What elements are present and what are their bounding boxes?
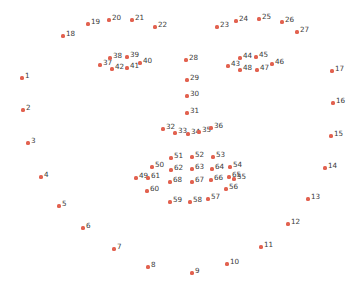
landmark-label: 61 [151,172,160,179]
landmark-marker-icon [227,175,230,178]
landmark-marker-icon [20,76,23,79]
landmark-marker-icon [206,197,209,200]
landmark-marker-icon [21,108,24,111]
landmark-marker-icon [161,127,164,130]
landmark-label: 24 [239,15,248,22]
landmark-label: 6 [86,222,90,229]
landmark-label: 67 [195,176,204,183]
landmark-marker-icon [329,134,332,137]
landmark-marker-icon [330,69,333,72]
landmark-label: 52 [195,151,204,158]
landmark-marker-icon [323,166,326,169]
landmark-marker-icon [225,262,228,265]
landmark-marker-icon [295,30,298,33]
landmark-marker-icon [211,155,214,158]
landmark-label: 50 [155,161,164,168]
landmark-label: 14 [328,162,337,169]
landmark-marker-icon [168,180,171,183]
landmark-marker-icon [331,101,334,104]
landmark-label: 9 [195,267,199,274]
landmark-marker-icon [190,271,193,274]
landmark-label: 23 [220,21,229,28]
landmark-label: 39 [130,51,139,58]
landmark-label: 51 [174,152,183,159]
landmark-label: 26 [285,16,294,23]
landmark-label: 4 [44,171,48,178]
landmark-marker-icon [254,55,257,58]
landmark-label: 53 [216,151,225,158]
landmark-marker-icon [280,20,283,23]
scatter-plot-canvas: 1234567891011121314151617181920212223242… [0,0,364,290]
landmark-label: 41 [130,62,139,69]
landmark-marker-icon [270,62,273,65]
landmark-label: 47 [260,64,269,71]
landmark-label: 46 [275,58,284,65]
landmark-marker-icon [190,155,193,158]
landmark-marker-icon [125,55,128,58]
landmark-label: 21 [135,14,144,21]
landmark-marker-icon [255,68,258,71]
landmark-label: 5 [62,200,66,207]
landmark-marker-icon [169,168,172,171]
landmark-marker-icon [185,111,188,114]
landmark-label: 32 [166,123,175,130]
landmark-label: 17 [335,65,344,72]
landmark-marker-icon [169,156,172,159]
landmark-label: 66 [214,174,223,181]
landmark-marker-icon [107,18,110,21]
landmark-marker-icon [215,25,218,28]
landmark-label: 8 [151,261,155,268]
landmark-marker-icon [134,176,137,179]
landmark-marker-icon [98,63,101,66]
landmark-marker-icon [185,78,188,81]
landmark-marker-icon [57,204,60,207]
landmark-marker-icon [238,56,241,59]
landmark-marker-icon [286,222,289,225]
landmark-label: 43 [231,60,240,67]
landmark-label: 27 [300,26,309,33]
landmark-label: 11 [264,241,273,248]
landmark-marker-icon [150,165,153,168]
landmark-label: 68 [173,176,182,183]
landmark-label: 59 [173,196,182,203]
landmark-marker-icon [238,68,241,71]
landmark-marker-icon [190,180,193,183]
landmark-label: 36 [214,122,223,129]
landmark-label: 3 [31,137,35,144]
landmark-label: 56 [229,183,238,190]
landmark-marker-icon [234,19,237,22]
landmark-marker-icon [110,67,113,70]
landmark-marker-icon [209,178,212,181]
landmark-marker-icon [188,200,191,203]
landmark-marker-icon [112,247,115,250]
landmark-label: 37 [103,59,112,66]
landmark-marker-icon [257,17,260,20]
landmark-marker-icon [168,200,171,203]
landmark-label: 54 [233,161,242,168]
landmark-marker-icon [190,167,193,170]
landmark-marker-icon [145,189,148,192]
landmark-marker-icon [146,176,149,179]
landmark-label: 1 [25,72,29,79]
landmark-label: 25 [262,13,271,20]
landmark-label: 38 [113,52,122,59]
landmark-label: 15 [334,130,343,137]
landmark-marker-icon [209,126,212,129]
landmark-label: 18 [66,30,75,37]
landmark-marker-icon [226,64,229,67]
landmark-marker-icon [228,165,231,168]
landmark-label: 57 [211,193,220,200]
landmark-marker-icon [173,131,176,134]
landmark-label: 42 [115,63,124,70]
landmark-label: 40 [143,57,152,64]
landmark-marker-icon [39,175,42,178]
landmark-label: 12 [291,218,300,225]
landmark-marker-icon [184,58,187,61]
landmark-marker-icon [259,245,262,248]
landmark-label: 28 [189,54,198,61]
landmark-marker-icon [197,130,200,133]
landmark-label: 2 [26,104,30,111]
landmark-label: 48 [243,64,252,71]
landmark-marker-icon [306,197,309,200]
landmark-label: 65 [232,171,241,178]
